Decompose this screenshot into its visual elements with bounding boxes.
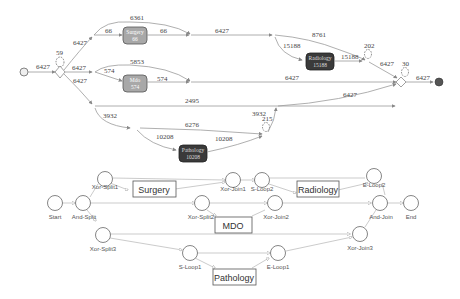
place-xor-split2[interactable]: Xor-Split2 (188, 196, 215, 221)
svg-text:Surgery: Surgery (126, 29, 144, 35)
transition-pathology[interactable]: Pathology (213, 269, 256, 285)
edge-label-mdo-branch-out: 6427 (285, 74, 300, 82)
end-node[interactable] (435, 78, 443, 86)
svg-text:Xor-Join1: Xor-Join1 (220, 186, 246, 192)
split-loop-label: 59 (56, 49, 64, 57)
activity-radiology[interactable]: Radiology 15188 (306, 53, 334, 70)
svg-text:66: 66 (132, 36, 138, 42)
place-and-join[interactable]: And-Join (369, 196, 393, 221)
join-gateway[interactable] (396, 77, 406, 87)
place-e-loop2[interactable]: E-Loop2 (363, 169, 386, 189)
svg-text:Xor-Join2: Xor-Join2 (263, 214, 289, 220)
edge-label-pathology-in: 10208 (156, 133, 174, 141)
activity-surgery[interactable]: Surgery 66 (123, 27, 147, 44)
split-gateway[interactable] (55, 66, 65, 78)
place-xor-join2[interactable]: Xor-Join2 (263, 196, 289, 221)
svg-text:Xor-Join3: Xor-Join3 (347, 245, 373, 251)
svg-text:Mdo: Mdo (130, 77, 141, 83)
process-map: 6427 59 6427 6361 66 Surgery 66 66 6427 … (20, 14, 443, 162)
edge-lower-branch-out (278, 84, 396, 106)
place-xor-split1[interactable]: Xor-Split1 (92, 172, 119, 191)
svg-text:E-Loop1: E-Loop1 (267, 264, 290, 270)
svg-text:15188: 15188 (313, 62, 327, 68)
join-loop-label: 30 (402, 60, 410, 68)
svg-text:Pathology: Pathology (182, 147, 205, 153)
edge-label-mdo-skip: 5853 (130, 58, 145, 66)
place-e-loop1[interactable]: E-Loop1 (267, 246, 290, 271)
start-node[interactable] (20, 68, 28, 76)
svg-text:End: End (406, 214, 417, 220)
edge-label-radiology-out: 15188 (341, 53, 359, 61)
svg-text:MDO: MDO (223, 221, 244, 231)
radiology-loop-icon (365, 50, 372, 59)
edge-label-lower-branch-out: 6427 (343, 91, 358, 99)
edge-label-surgery-branch-out: 6427 (215, 27, 230, 35)
edge-label-pathology-skip: 6276 (185, 121, 200, 129)
svg-text:Start: Start (49, 214, 62, 220)
edge-label-pathology-out: 10208 (215, 135, 233, 143)
svg-text:Xor-Split2: Xor-Split2 (188, 214, 215, 220)
edge-label-split-mdo: 6427 (72, 64, 87, 72)
svg-text:10208: 10208 (186, 154, 200, 160)
edge-label-mdo-in: 574 (104, 67, 115, 75)
svg-text:And-Join: And-Join (369, 214, 393, 220)
svg-text:Radiology: Radiology (309, 55, 332, 61)
svg-text:And-Split: And-Split (72, 214, 97, 220)
place-start[interactable]: Start (48, 196, 63, 221)
svg-text:Radiology: Radiology (298, 185, 339, 195)
edge-label-radiology-in: 15188 (283, 42, 301, 50)
process-diagram: 6427 59 6427 6361 66 Surgery 66 66 6427 … (0, 0, 460, 299)
edge-label-radiology-branch-out: 6427 (380, 60, 395, 68)
edge-label-lower-skip: 2495 (185, 97, 200, 105)
svg-text:574: 574 (131, 84, 140, 90)
edge-label-surgery-in: 66 (105, 27, 113, 35)
transition-surgery[interactable]: Surgery (133, 181, 176, 197)
svg-text:Xor-Split1: Xor-Split1 (92, 184, 119, 190)
edge-label-pathology-branch-in: 3932 (103, 112, 118, 120)
activity-pathology[interactable]: Pathology 10208 (179, 145, 207, 162)
svg-text:S-Loop2: S-Loop2 (251, 186, 274, 192)
place-s-loop1[interactable]: S-Loop1 (179, 246, 202, 271)
svg-text:Pathology: Pathology (214, 273, 255, 283)
edge-label-end: 6427 (416, 74, 431, 82)
svg-text:Surgery: Surgery (138, 185, 170, 195)
edge-label-mdo-out: 574 (157, 75, 168, 83)
transition-mdo[interactable]: MDO (215, 217, 252, 233)
place-xor-split3[interactable]: Xor-Split3 (90, 228, 117, 253)
place-s-loop2[interactable]: S-Loop2 (251, 173, 274, 193)
petri-net: Start And-Split Xor-Split1 Xor-Join1 S-L… (48, 169, 419, 286)
svg-text:Xor-Split3: Xor-Split3 (90, 246, 117, 252)
edge-label-split-lower: 6427 (73, 77, 88, 85)
svg-text:S-Loop1: S-Loop1 (179, 264, 202, 270)
svg-text:E-Loop2: E-Loop2 (363, 182, 386, 188)
pathology-loop-icon (263, 123, 270, 132)
edge-label-split-surgery: 6427 (73, 39, 88, 47)
transition-radiology[interactable]: Radiology (297, 181, 339, 197)
place-and-split[interactable]: And-Split (72, 196, 97, 221)
join-loop-icon (402, 68, 409, 77)
edge-label-surgery-out: 66 (160, 27, 168, 35)
place-end[interactable]: End (404, 196, 419, 221)
edge-label-pathology-branch-out: 3932 (252, 110, 267, 118)
activity-mdo[interactable]: Mdo 574 (123, 75, 147, 92)
edge-label-radiology-skip: 8761 (312, 31, 327, 39)
radiology-loop-label: 202 (364, 42, 375, 50)
edge-label-surgery-skip: 6361 (130, 14, 145, 22)
place-xor-join3[interactable]: Xor-Join3 (347, 227, 373, 252)
edge-label-start: 6427 (36, 63, 51, 71)
